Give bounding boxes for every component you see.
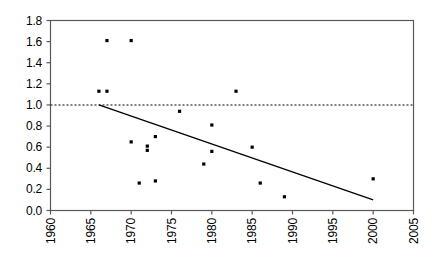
data-point: [251, 146, 254, 149]
x-tick-label: 1990: [287, 218, 299, 244]
data-point: [178, 110, 181, 113]
y-tick-label: 0.4: [2, 162, 42, 174]
data-point: [372, 177, 375, 180]
y-tick-label: 0.6: [2, 141, 42, 153]
scatter-chart: 0.00.20.40.60.81.01.21.41.61.8 196019651…: [0, 0, 439, 259]
x-tick-label: 1975: [166, 218, 178, 244]
data-point: [259, 181, 262, 184]
y-tick-label: 1.6: [2, 36, 42, 48]
data-point: [154, 135, 157, 138]
x-tick-label: 1970: [125, 218, 137, 244]
x-tick-label: 2005: [408, 218, 420, 244]
data-point: [138, 181, 141, 184]
data-point: [234, 90, 237, 93]
x-axis-ticks: [51, 211, 414, 215]
data-point: [210, 123, 213, 126]
x-tick-label: 1995: [327, 218, 339, 244]
y-tick-label: 1.4: [2, 57, 42, 69]
trend-line-path: [99, 105, 373, 200]
data-point: [146, 145, 149, 148]
data-point: [202, 162, 205, 165]
trend-line: [99, 105, 373, 200]
data-point: [210, 150, 213, 153]
data-point: [130, 140, 133, 143]
x-tick-label: 1965: [85, 218, 97, 244]
data-point: [105, 39, 108, 42]
plot-frame: [51, 21, 414, 211]
y-tick-label: 1.8: [2, 15, 42, 27]
data-point: [154, 179, 157, 182]
data-point: [130, 39, 133, 42]
y-tick-label: 0.2: [2, 183, 42, 195]
data-point: [97, 90, 100, 93]
y-tick-label: 0.8: [2, 120, 42, 132]
data-point: [105, 90, 108, 93]
x-tick-label: 2000: [367, 218, 379, 244]
y-tick-label: 1.2: [2, 78, 42, 90]
data-point: [283, 195, 286, 198]
x-tick-label: 1985: [246, 218, 258, 244]
data-point: [146, 149, 149, 152]
x-tick-label: 1960: [45, 218, 57, 244]
x-tick-label: 1980: [206, 218, 218, 244]
y-tick-label: 1.0: [2, 99, 42, 111]
y-tick-label: 0.0: [2, 205, 42, 217]
